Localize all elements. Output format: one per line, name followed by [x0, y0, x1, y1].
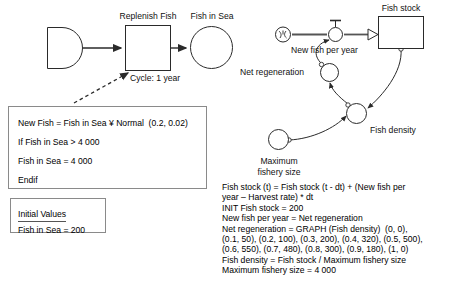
equation-line: Net regeneration = GRAPH (Fish density) … — [222, 224, 459, 234]
initial-values-header: Initial Values — [18, 208, 66, 222]
equation-line: (0.1, 50), (0.2, 100), (0.3, 200), (0.4,… — [222, 234, 459, 244]
link-maxsize-to-fishdensity — [289, 116, 346, 140]
equation-line: New fish per year = Net regeneration — [222, 213, 459, 223]
rule-line: New Fish = Fish in Sea ¥ Normal (0.2, 0.… — [18, 114, 206, 133]
arrow-rule-callout — [74, 73, 128, 103]
flow-arrowhead-into-stock — [368, 29, 378, 40]
rule-annotation-box: New Fish = Fish in Sea ¥ Normal (0.2, 0.… — [8, 106, 207, 189]
equation-line: Fish stock (t) = Fish stock (t - dt) + (… — [222, 182, 459, 192]
net-regeneration-label: Net regeneration — [240, 67, 304, 77]
net-regeneration-circle — [320, 63, 339, 82]
equation-line: year – Harvest rate) * dt — [222, 192, 459, 202]
maximum-fishery-size-circle — [268, 129, 289, 150]
equation-line: Fish density = Fish stock / Maximum fish… — [222, 255, 459, 265]
new-fish-per-year-label: New fish per year — [291, 45, 358, 55]
rule-line: Fish in Sea = 4 000 — [18, 152, 206, 171]
cycle-note-label: Cycle: 1 year — [130, 73, 180, 83]
link-fishdensity-to-netregen — [330, 83, 348, 104]
rule-line: Endif — [18, 171, 206, 190]
fish-stock-label: Fish stock — [366, 3, 436, 13]
maximum-fishery-size-label-line2: fishery size — [248, 167, 310, 177]
equation-line: Maximum fishery size = 4 000 — [222, 265, 459, 275]
fish-density-circle — [346, 103, 367, 124]
equation-line: (0.6, 550), (0.7, 480), (0.8, 300), (0.9… — [222, 244, 459, 254]
rule-line: If Fish in Sea > 4 000 — [18, 133, 206, 152]
diagram-canvas: Replenish Fish Fish in Sea Cycle: 1 year… — [0, 0, 461, 304]
initial-values-box: Initial Values Fish in Sea = 200 — [10, 198, 106, 233]
fish-in-sea-label: Fish in Sea — [178, 11, 246, 21]
flow-valve-circle — [328, 27, 343, 42]
link-fishstock-to-fishdensity — [368, 49, 401, 108]
equation-line: INIT Fish stock = 200 — [222, 203, 459, 213]
fish-density-label: Fish density — [370, 125, 416, 135]
maximum-fishery-size-label-line1: Maximum — [248, 156, 310, 166]
initial-values-value: Fish in Sea = 200 — [18, 223, 105, 237]
fish-in-sea-circle — [190, 26, 233, 69]
source-shape — [47, 27, 83, 69]
cloud-source-icon — [276, 27, 291, 42]
fish-stock-box — [378, 16, 424, 49]
replenish-fish-box — [125, 25, 171, 71]
equations-block: Fish stock (t) = Fish stock (t - dt) + (… — [222, 182, 459, 276]
